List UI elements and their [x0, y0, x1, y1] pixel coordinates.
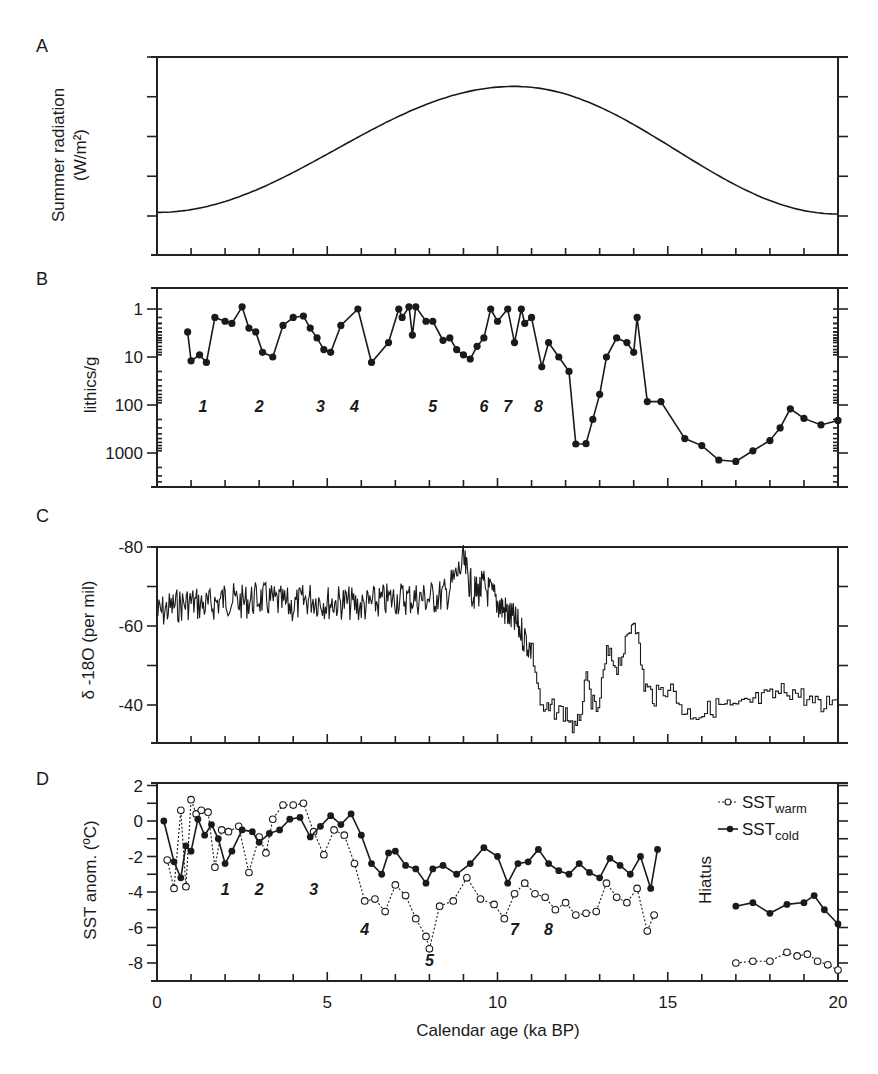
svg-text:5: 5	[428, 398, 438, 415]
svg-text:4: 4	[349, 398, 359, 415]
panel-d-sst-warm-series	[164, 796, 841, 973]
svg-text:1: 1	[199, 398, 208, 415]
panel-c-letter: C	[36, 506, 49, 526]
panel-d-letter: D	[36, 769, 49, 789]
panel-d-event-labels: 1234578	[221, 881, 553, 969]
svg-text:1000: 1000	[105, 444, 143, 463]
x-axis-tick-labels: 05101520	[152, 993, 847, 1012]
svg-text:5: 5	[425, 952, 435, 969]
panel-c-ylabel: δ -18O (per mil)	[79, 580, 98, 699]
svg-text:10: 10	[124, 348, 143, 367]
panel-a-ylabel-line1: Summer radiation	[49, 88, 68, 222]
svg-text:-80: -80	[118, 538, 143, 557]
svg-text:5: 5	[323, 993, 332, 1012]
svg-text:-8: -8	[128, 954, 143, 973]
figure-canvas: A Summer radiation (W/m²) B lithics/g 11…	[0, 0, 878, 1074]
svg-text:-2: -2	[128, 848, 143, 867]
legend-warm-label: SSTwarm	[742, 793, 807, 816]
panel-a-ylabel: Summer radiation (W/m²)	[49, 88, 90, 222]
svg-text:2: 2	[254, 881, 264, 898]
panel-b-lithics-series	[184, 303, 842, 465]
svg-text:8: 8	[534, 398, 543, 415]
svg-text:-4: -4	[128, 883, 143, 902]
svg-text:3: 3	[309, 881, 318, 898]
panel-b-ylabel: lithics/g	[81, 357, 100, 414]
svg-text:20: 20	[829, 993, 848, 1012]
panel-d-axes: 20-2-4-6-8	[128, 777, 848, 982]
svg-text:7: 7	[503, 398, 513, 415]
legend-item-sst-cold: SSTcold	[718, 820, 799, 843]
svg-text:2: 2	[254, 398, 264, 415]
panel-d-sst-cold-series	[160, 811, 841, 928]
svg-text:100: 100	[115, 396, 143, 415]
hiatus-label: Hiatus	[696, 856, 715, 904]
panel-b: B lithics/g 1101001000 12345678	[36, 269, 848, 487]
panel-b-letter: B	[36, 269, 48, 289]
svg-text:0: 0	[134, 812, 143, 831]
legend-cold-label: SSTcold	[742, 820, 799, 843]
svg-text:15: 15	[658, 993, 677, 1012]
svg-text:10: 10	[488, 993, 507, 1012]
svg-text:-40: -40	[118, 696, 143, 715]
svg-text:1: 1	[221, 881, 230, 898]
panel-c-axes: -80-60-40	[118, 538, 848, 743]
svg-text:8: 8	[544, 921, 553, 938]
panel-d-legend: SSTwarm SSTcold	[718, 793, 807, 843]
svg-text:1: 1	[134, 300, 143, 319]
panel-c: C δ -18O (per mil) -80-60-40	[36, 506, 848, 743]
panel-d: D SST anom. (ºC) 20-2-4-6-8 1234578 Hiat…	[36, 769, 848, 981]
panel-b-event-labels: 12345678	[199, 398, 543, 415]
panel-a-ylabel-line2: (W/m²)	[71, 129, 90, 181]
svg-text:4: 4	[359, 921, 369, 938]
svg-text:-6: -6	[128, 919, 143, 938]
panel-a: A Summer radiation (W/m²)	[36, 36, 848, 255]
svg-text:0: 0	[152, 993, 161, 1012]
filled-circle-marker-icon	[727, 826, 733, 832]
panel-d-ylabel: SST anom. (ºC)	[81, 820, 100, 939]
svg-text:7: 7	[510, 921, 520, 938]
svg-text:-60: -60	[118, 617, 143, 636]
panel-a-letter: A	[36, 36, 48, 56]
panel-a-radiation-curve	[157, 86, 838, 214]
open-circle-marker-icon	[725, 799, 731, 805]
svg-text:6: 6	[479, 398, 488, 415]
panel-c-d18o-curve	[157, 545, 838, 733]
x-axis-label: Calendar age (ka BP)	[416, 1021, 579, 1040]
svg-text:2: 2	[134, 777, 143, 796]
svg-text:3: 3	[316, 398, 325, 415]
legend-item-sst-warm: SSTwarm	[718, 793, 807, 816]
